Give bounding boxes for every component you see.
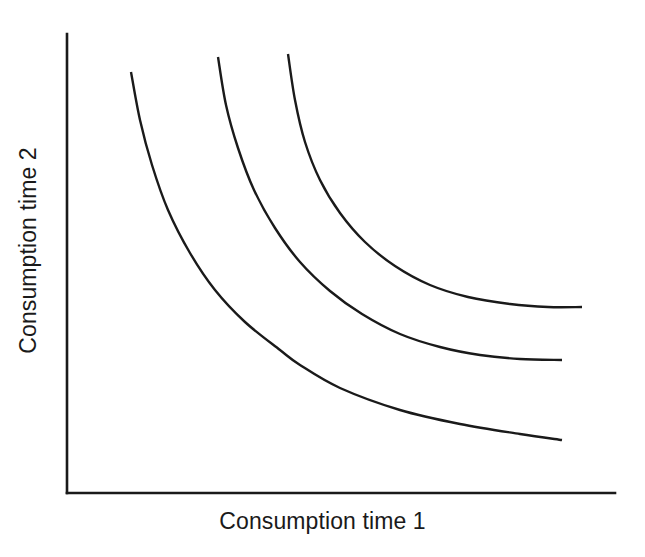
indifference-curve-2 [218, 57, 562, 360]
y-axis-label: Consumption time 2 [15, 147, 42, 353]
indifference-curve-1 [131, 72, 562, 440]
x-axis-label: Consumption time 1 [0, 508, 645, 535]
chart-figure: Consumption time 2 Consumption time 1 [0, 0, 645, 557]
y-axis-label-container: Consumption time 2 [0, 0, 56, 500]
axes-group [67, 34, 615, 493]
indifference-curve-3 [288, 54, 582, 307]
chart-canvas [0, 0, 645, 557]
curves-group [131, 54, 582, 440]
